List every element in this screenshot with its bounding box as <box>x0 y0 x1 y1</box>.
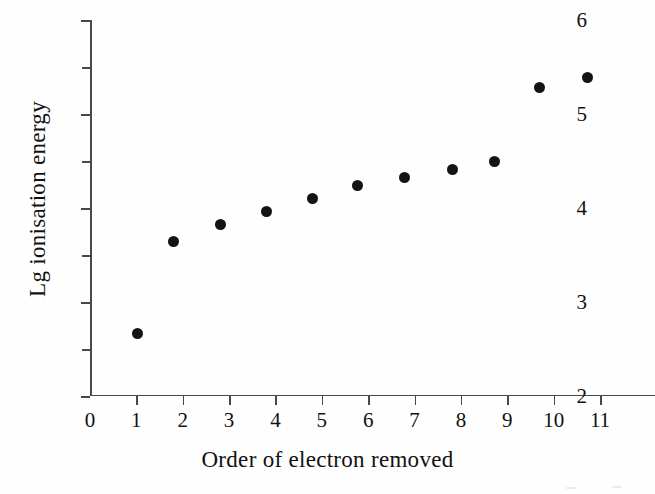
x-tick-label: 11 <box>590 410 610 431</box>
x-tick-label: 8 <box>456 410 467 431</box>
data-point-3 <box>215 219 226 230</box>
data-point-7 <box>399 172 410 183</box>
plot-area: 23456 01234567891011 <box>90 20 600 396</box>
x-tick-1 <box>136 395 138 405</box>
data-point-4 <box>261 206 272 217</box>
x-tick-label: 3 <box>224 410 235 431</box>
x-tick-label: 1 <box>131 410 142 431</box>
y-tick-3 <box>81 302 90 304</box>
x-axis-title: Order of electron removed <box>0 447 655 473</box>
y-tick-6 <box>81 20 90 22</box>
data-point-9 <box>489 156 500 167</box>
scan-speckle <box>612 486 621 488</box>
data-point-5 <box>307 193 318 204</box>
scan-speckle <box>566 487 576 489</box>
data-point-11 <box>582 72 593 83</box>
y-minor-tick <box>82 161 90 163</box>
data-point-8 <box>447 164 458 175</box>
data-point-6 <box>352 180 363 191</box>
y-axis-line <box>90 20 92 396</box>
y-minor-tick <box>82 67 90 69</box>
y-tick-4 <box>81 208 90 210</box>
x-tick-11 <box>600 395 602 405</box>
x-axis-line <box>90 395 655 397</box>
y-minor-tick <box>82 349 90 351</box>
x-tick-4 <box>275 395 277 405</box>
x-tick-label: 5 <box>317 410 328 431</box>
x-tick-label: 10 <box>543 410 564 431</box>
y-minor-tick <box>82 255 90 257</box>
y-tick-label: 2 <box>577 386 588 407</box>
ionisation-energy-scatter-chart: 23456 01234567891011 Lg ionisation energ… <box>0 0 655 494</box>
y-tick-label: 4 <box>577 198 588 219</box>
y-tick-label: 3 <box>577 292 588 313</box>
x-tick-10 <box>554 395 556 405</box>
x-tick-label: 7 <box>409 410 420 431</box>
y-axis-title: Lg ionisation energy <box>25 9 51 389</box>
x-tick-label: 2 <box>177 410 188 431</box>
x-tick-label: 0 <box>85 410 96 431</box>
x-tick-label: 9 <box>502 410 513 431</box>
y-tick-label: 5 <box>577 104 588 125</box>
x-tick-3 <box>229 395 231 405</box>
x-tick-8 <box>461 395 463 405</box>
x-tick-6 <box>368 395 370 405</box>
data-point-10 <box>534 82 545 93</box>
x-tick-label: 6 <box>363 410 374 431</box>
x-tick-7 <box>415 395 417 405</box>
data-point-2 <box>168 236 179 247</box>
y-tick-5 <box>81 114 90 116</box>
y-tick-label: 6 <box>577 10 588 31</box>
data-point-1 <box>132 328 143 339</box>
x-tick-5 <box>322 395 324 405</box>
x-tick-label: 4 <box>270 410 281 431</box>
x-tick-9 <box>507 395 509 405</box>
y-tick-2 <box>81 396 90 398</box>
x-tick-2 <box>183 395 185 405</box>
